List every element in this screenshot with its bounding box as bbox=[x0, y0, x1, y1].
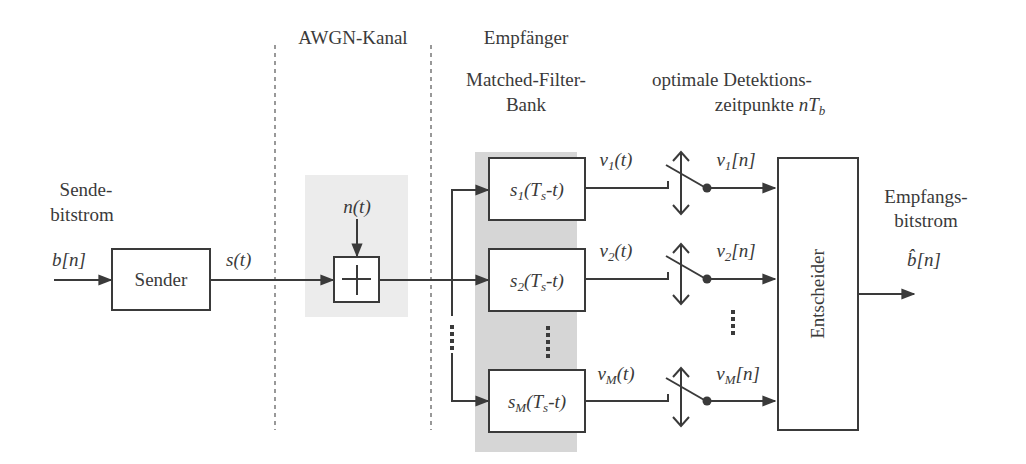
input-label-line2: bitstrom bbox=[50, 204, 114, 225]
sampling-title-line2: zeitpunkte nTb bbox=[715, 94, 826, 118]
decision-label: Entscheider bbox=[807, 248, 828, 338]
section-channel-title: AWGN-Kanal bbox=[298, 27, 407, 48]
matched-filter-2: s2(Ts-t) bbox=[489, 249, 585, 311]
input-signal-label: b[n] bbox=[52, 249, 86, 270]
sampler-ellipsis-dots bbox=[731, 310, 735, 335]
svg-text:v1(t): v1(t) bbox=[600, 149, 633, 173]
sender-label: Sender bbox=[135, 269, 188, 290]
sampler-branch-1: v1(t) v1[n] bbox=[585, 149, 775, 214]
svg-text:v2[n]: v2[n] bbox=[716, 240, 755, 264]
svg-text:v2(t): v2(t) bbox=[600, 240, 633, 264]
filterbank-title-line1: Matched-Filter- bbox=[466, 69, 586, 90]
svg-text:vM(t): vM(t) bbox=[597, 363, 634, 387]
sampling-title-line1: optimale Detektions- bbox=[652, 69, 812, 90]
section-receiver-title: Empfänger bbox=[484, 27, 569, 48]
matched-filter-1: s1(Ts-t) bbox=[489, 158, 585, 220]
sampler-branch-M: vM(t) vM[n] bbox=[585, 363, 775, 426]
input-label-line1: Sende- bbox=[60, 179, 113, 200]
awgn-receiver-block-diagram: AWGN-Kanal Empfänger Matched-Filter- Ban… bbox=[0, 0, 1026, 464]
bus-ellipsis-dots bbox=[450, 325, 454, 350]
sender-output-signal: s(t) bbox=[226, 249, 251, 271]
matched-filter-M: sM(Ts-t) bbox=[489, 370, 585, 432]
sampler-branch-2: v2(t) v2[n] bbox=[585, 240, 775, 304]
noise-signal-label: n(t) bbox=[343, 196, 370, 218]
filterbank-title-line2: Bank bbox=[506, 94, 547, 115]
output-signal-label: b̂[n] bbox=[907, 249, 941, 270]
output-label-line2: bitstrom bbox=[894, 210, 958, 231]
svg-text:v1[n]: v1[n] bbox=[716, 149, 755, 173]
svg-text:vM[n]: vM[n] bbox=[716, 363, 760, 387]
output-label-line1: Empfangs- bbox=[884, 186, 967, 207]
